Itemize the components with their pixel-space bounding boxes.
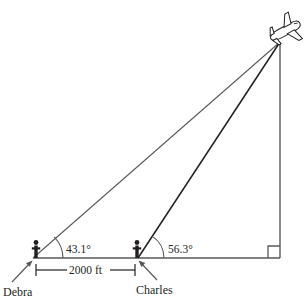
leader-arrow-debra-icon	[12, 261, 33, 283]
distance-label: 2000 ft	[69, 264, 103, 276]
observer-label-charles: Charles	[136, 283, 173, 297]
line-of-sight-charles	[138, 42, 280, 258]
airplane-icon	[264, 10, 307, 52]
observer-label-debra: Debra	[3, 285, 33, 299]
right-angle-mark-icon	[268, 246, 280, 258]
trigonometry-diagram: 43.1° 56.3° 2000 ft Debra Charles	[0, 0, 307, 306]
angle-label-debra: 43.1°	[66, 243, 91, 255]
leader-arrow-charles-icon	[139, 261, 158, 281]
diagram-canvas: 43.1° 56.3° 2000 ft Debra Charles	[0, 0, 307, 306]
angle-arc-charles	[152, 236, 164, 258]
angle-label-charles: 56.3°	[168, 243, 193, 255]
angle-arc-debra	[54, 237, 63, 258]
person-icon-debra	[32, 240, 40, 258]
line-of-sight-debra	[33, 42, 280, 258]
